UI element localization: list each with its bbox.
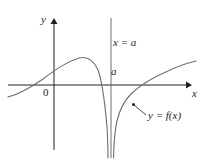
curve-label-leader-line — [134, 105, 146, 115]
curve-label-leader-dot — [132, 103, 135, 106]
asymptote-equation-label: x = a — [113, 37, 136, 48]
origin-label: 0 — [43, 87, 49, 98]
function-curve-label: y = f(x) — [148, 110, 181, 121]
function-graph-figure: y x 0 a x = a y = f(x) — [0, 0, 205, 161]
y-axis — [51, 18, 58, 150]
asymptote-tick-label: a — [111, 66, 117, 77]
function-curve-left-branch — [8, 57, 108, 158]
y-axis-label: y — [41, 14, 46, 25]
y-axis-arrowhead — [51, 18, 58, 24]
curve-label-leader — [132, 103, 146, 115]
x-axis-label: x — [192, 88, 197, 99]
x-axis — [8, 82, 192, 89]
graph-canvas — [0, 0, 205, 161]
